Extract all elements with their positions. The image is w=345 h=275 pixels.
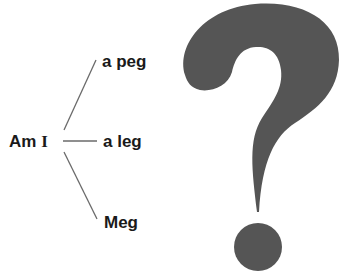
branch-node-label-a-peg: a peg	[102, 53, 146, 70]
question-mark-icon	[183, 4, 339, 271]
connector-line-lower	[64, 152, 97, 219]
root-node-label-suffix: I	[41, 132, 48, 151]
connector-line-upper	[64, 60, 96, 130]
diagram-canvas: Am I a peg a leg Meg	[0, 0, 345, 275]
root-node-label-prefix: Am	[9, 132, 41, 151]
branch-node-label-meg: Meg	[104, 214, 138, 231]
question-mark-dot	[234, 223, 282, 271]
diagram-graphics	[0, 0, 345, 275]
root-node-label: Am I	[9, 133, 48, 150]
branch-node-label-a-leg: a leg	[103, 133, 142, 150]
